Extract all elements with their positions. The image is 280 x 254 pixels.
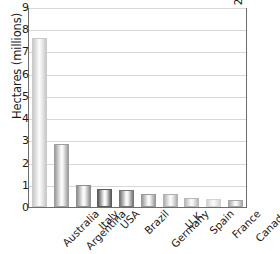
y-tick-label: 4 — [7, 113, 29, 124]
y-tick-label: 6 — [7, 69, 29, 80]
bar — [54, 144, 69, 207]
bar — [119, 190, 134, 207]
bar — [163, 194, 178, 207]
x-tick-label: Brazil — [142, 208, 171, 237]
bar — [76, 185, 91, 207]
y-tick-label: 9 — [7, 2, 29, 13]
y-tick-label: 8 — [7, 24, 29, 35]
y-tick-label: 2 — [7, 158, 29, 169]
y-tick-label: 1 — [7, 180, 29, 191]
bar-series — [29, 9, 246, 207]
bar — [206, 199, 221, 207]
y-tick-label: 7 — [7, 46, 29, 57]
y-tick-label: 3 — [7, 135, 29, 146]
bar — [141, 194, 156, 207]
bar — [32, 38, 47, 207]
bar — [97, 189, 112, 207]
bar — [184, 198, 199, 207]
bar — [228, 200, 243, 207]
y-tick-label: 5 — [7, 91, 29, 102]
bar-chart-figure: Hectares (millions) adapted from SOEL-Su… — [0, 0, 280, 254]
x-axis-ticks: AustraliaArgentinaItalyUSABrazilGermanyU… — [0, 208, 280, 254]
